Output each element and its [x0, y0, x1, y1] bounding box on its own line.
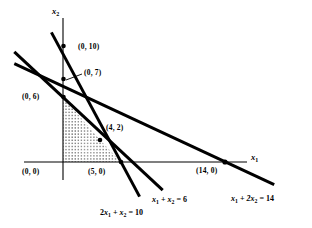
point-marker-5-0: [119, 160, 124, 165]
y-axis-name: x2: [52, 7, 59, 16]
annotation-point-14-0: (14, 0): [196, 167, 217, 175]
equation-label-x1-x2-6: x1 + x2 = 6: [152, 196, 187, 204]
linear-programming-figure: x2 x1 (0, 10) (0, 7) (0, 6) (4, 2) (0, 0…: [0, 0, 312, 228]
annotation-point-4-2: (4, 2): [106, 124, 123, 132]
annotation-point-0-10: (0, 10): [78, 43, 99, 51]
annotation-point-0-7: (0, 7): [84, 69, 101, 77]
point-marker-0-7: [61, 77, 66, 82]
x-axis-name: x1: [251, 153, 258, 162]
equation-label-x1-2x2-14: x1 + 2x2 = 14: [231, 195, 274, 203]
constraint-line-x1-2x2-14: [14, 64, 274, 185]
point-marker-0-6: [61, 95, 66, 100]
annotation-point-5-0: (5, 0): [88, 168, 105, 176]
annotation-point-0-0: (0, 0): [22, 168, 39, 176]
point-marker-0-10: [61, 44, 66, 49]
point-marker-4-2: [98, 138, 103, 143]
point-marker-14-0: [222, 159, 227, 164]
equation-label-2x1-x2-10: 2x1 + x2 = 10: [100, 209, 143, 217]
annotation-point-0-6: (0, 6): [22, 93, 39, 101]
